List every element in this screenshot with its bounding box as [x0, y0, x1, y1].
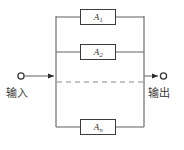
component-block-a2-label: A2: [94, 47, 103, 57]
component-block-a1-label: A1: [94, 12, 103, 22]
input-label: 输入: [6, 88, 28, 99]
parallel-reliability-block-diagram: A1 A2 An 输入 输出: [0, 0, 184, 150]
component-block-an-label: An: [94, 122, 103, 132]
output-terminal-circle: [160, 73, 166, 79]
component-block-an: An: [80, 119, 116, 135]
input-terminal-circle: [18, 73, 24, 79]
component-block-a1: A1: [80, 9, 116, 25]
component-block-a2: A2: [80, 44, 116, 60]
output-label: 输出: [148, 88, 170, 99]
